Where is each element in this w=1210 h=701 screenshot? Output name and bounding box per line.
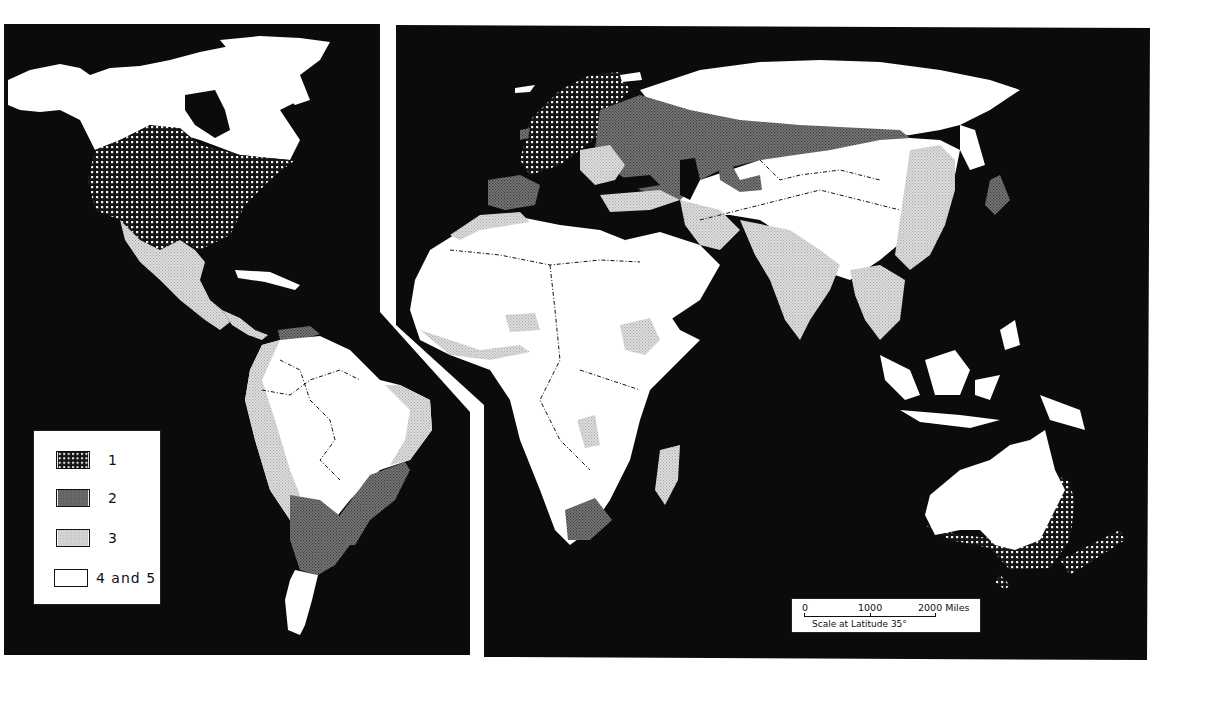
class-3-swatch bbox=[56, 529, 90, 547]
scale-tick-mark bbox=[804, 613, 805, 617]
class-2-swatch bbox=[56, 489, 90, 507]
legend-item-1: 1 bbox=[56, 451, 118, 469]
scale-caption: Scale at Latitude 35° bbox=[812, 619, 907, 629]
world-map bbox=[0, 0, 1210, 701]
legend-item-2: 2 bbox=[56, 489, 118, 507]
scale-tick-0: 0 bbox=[802, 602, 808, 613]
scale-tick-1000: 1000 bbox=[858, 602, 882, 613]
legend-label: 4 and 5 bbox=[96, 570, 156, 586]
legend-label: 3 bbox=[108, 530, 118, 546]
class-1-swatch bbox=[56, 451, 90, 469]
legend-item-4-5: 4 and 5 bbox=[54, 569, 156, 587]
legend-label: 1 bbox=[108, 452, 118, 468]
map-legend: 1 2 3 4 and 5 bbox=[33, 430, 161, 605]
class-4-5-swatch bbox=[54, 569, 88, 587]
scale-tick-mark bbox=[935, 613, 936, 617]
scale-tick-2000: 2000 Miles bbox=[918, 602, 969, 613]
legend-item-3: 3 bbox=[56, 529, 118, 547]
scale-bar: 0 1000 2000 Miles Scale at Latitude 35° bbox=[791, 598, 981, 633]
legend-label: 2 bbox=[108, 490, 118, 506]
scale-tick-mark bbox=[870, 613, 871, 617]
